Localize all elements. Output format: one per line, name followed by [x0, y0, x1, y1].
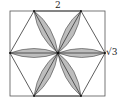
vertex-dot	[9, 52, 11, 54]
vertex-dot	[33, 10, 35, 12]
vertex-dot	[33, 95, 35, 97]
hexagon-flower-diagram	[0, 0, 119, 100]
width-label: 2	[55, 1, 61, 10]
center-dot	[57, 52, 60, 55]
vertex-dot	[80, 10, 82, 12]
vertex-dot	[80, 95, 82, 97]
height-label: √3	[106, 48, 117, 57]
